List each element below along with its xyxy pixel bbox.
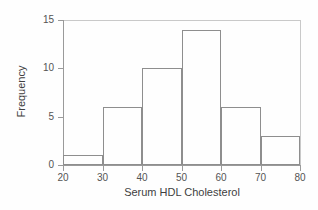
plot-top-border xyxy=(63,20,301,21)
x-tick-mark xyxy=(103,166,104,171)
x-tick-label: 20 xyxy=(48,172,78,183)
y-tick-mark xyxy=(58,68,63,69)
y-tick-mark xyxy=(58,20,63,21)
histogram-figure: 20304050607080 051015 Serum HDL Choleste… xyxy=(0,0,318,210)
histogram-bar xyxy=(63,155,103,165)
x-tick-label: 30 xyxy=(88,172,118,183)
x-tick-label: 70 xyxy=(246,172,276,183)
y-tick-mark xyxy=(58,165,63,166)
histogram-bar xyxy=(142,68,182,165)
y-axis-line xyxy=(63,20,64,166)
x-tick-mark xyxy=(221,166,222,171)
x-tick-label: 80 xyxy=(285,172,315,183)
y-axis-title: Frequency xyxy=(15,42,28,142)
histogram-bar xyxy=(182,30,222,165)
histogram-bar xyxy=(103,107,143,165)
x-tick-mark xyxy=(300,166,301,171)
x-tick-label: 40 xyxy=(127,172,157,183)
histogram-bar xyxy=(221,107,261,165)
y-tick-label: 10 xyxy=(32,62,54,73)
y-tick-mark xyxy=(58,117,63,118)
x-tick-mark xyxy=(261,166,262,171)
y-tick-label: 15 xyxy=(32,14,54,25)
x-tick-label: 50 xyxy=(167,172,197,183)
x-axis-title: Serum HDL Cholesterol xyxy=(63,186,301,199)
y-tick-label: 0 xyxy=(32,159,54,170)
plot-right-border xyxy=(300,20,301,166)
histogram-bar xyxy=(261,136,301,165)
y-tick-label: 5 xyxy=(32,111,54,122)
x-tick-mark xyxy=(142,166,143,171)
x-tick-mark xyxy=(182,166,183,171)
x-tick-label: 60 xyxy=(206,172,236,183)
x-tick-mark xyxy=(63,166,64,171)
